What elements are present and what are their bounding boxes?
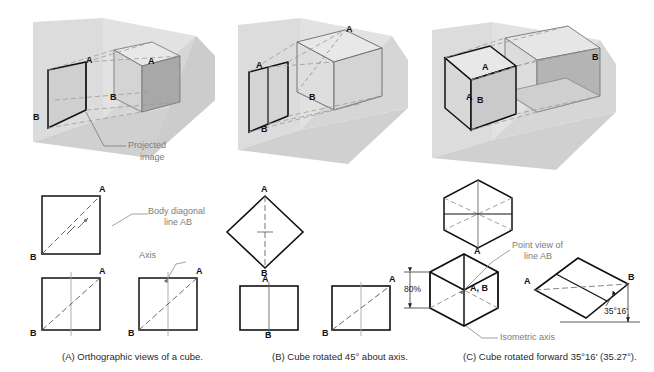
hex-main-h1 bbox=[430, 290, 464, 308]
ortho-vertex-b-side: B bbox=[128, 328, 135, 338]
hex-main-e1 bbox=[430, 272, 464, 290]
ortho-vertex-a-side: A bbox=[196, 266, 203, 276]
ortho-vertex-b-front-b: B bbox=[265, 330, 272, 340]
vertex-label-a-plane-c: A bbox=[482, 62, 489, 72]
panel-a-pictorial bbox=[33, 18, 215, 158]
ortho-vertex-a-front: A bbox=[99, 266, 106, 276]
vertex-label-b-cube-a: B bbox=[110, 92, 117, 102]
ortho-vertex-a-diamond-b: A bbox=[261, 184, 268, 194]
isometric-axis-label: Isometric axis bbox=[500, 332, 555, 343]
point-view-vertex-ab: A, B bbox=[470, 283, 488, 293]
angle-label-c: 35°16' bbox=[604, 306, 628, 316]
caption-panel-a: (A) Orthographic views of a cube. bbox=[62, 351, 203, 362]
ortho-top-diagonal-a bbox=[42, 196, 100, 254]
vertex-label-a-cube-3d-a: A bbox=[148, 56, 155, 66]
ortho-vertex-a-front-b: A bbox=[262, 274, 269, 284]
projected-image-label-line1: Projected bbox=[128, 140, 166, 151]
panel-b-ortho bbox=[227, 196, 390, 336]
tilted-mid-c bbox=[556, 274, 607, 301]
vertex-label-b-proj-b: B bbox=[261, 124, 268, 134]
body-diagonal-label-line1: Body diagonal bbox=[148, 206, 205, 217]
vertex-label-b-cube-b: B bbox=[309, 92, 316, 102]
projected-image-label-line2: image bbox=[140, 152, 165, 163]
panel-b-pictorial bbox=[238, 18, 408, 164]
body-diagonal-label-line2: line AB bbox=[164, 217, 192, 228]
vertex-label-b-cube-c: B bbox=[592, 52, 599, 62]
vertex-label-a-cube-a: A bbox=[86, 55, 93, 65]
ortho-vertex-b-front: B bbox=[30, 328, 37, 338]
leader-body-diagonal bbox=[112, 214, 148, 226]
vertex-label-a-proj-b: A bbox=[256, 60, 263, 70]
ortho-arrow-a bbox=[78, 218, 88, 228]
point-view-label-line2: line AB bbox=[524, 251, 552, 262]
leader-isometric-axis bbox=[466, 326, 498, 338]
percent-label-80: 80% bbox=[404, 284, 421, 294]
ortho-vertex-a-side-b: A bbox=[389, 274, 396, 284]
vertex-label-a-left-c: A bbox=[466, 92, 473, 102]
vertex-label-a-cube-b: A bbox=[346, 24, 353, 34]
leader-axis bbox=[168, 262, 186, 278]
caption-panel-b: (B) Cube rotated 45° about axis. bbox=[272, 351, 408, 362]
ortho-vertex-b-top: B bbox=[30, 252, 37, 262]
tilted-vertex-b-c: B bbox=[628, 272, 635, 282]
axis-label: Axis bbox=[139, 250, 156, 261]
caption-panel-c: (C) Cube rotated forward 35°16' (35.27°)… bbox=[463, 351, 637, 362]
tilted-diagonal-c bbox=[535, 284, 628, 290]
ortho-vertex-b-side-b: B bbox=[322, 328, 329, 338]
point-view-label-line1: Point view of bbox=[512, 240, 563, 251]
ortho-vertex-a-top: A bbox=[99, 184, 106, 194]
panel-c-pictorial bbox=[432, 22, 616, 170]
vertex-label-b-left-c: B bbox=[477, 95, 484, 105]
hex-vertex-a-c: A bbox=[474, 246, 481, 256]
tilted-vertex-a-c: A bbox=[524, 276, 531, 286]
vertex-label-b-proj-a: B bbox=[33, 112, 40, 122]
